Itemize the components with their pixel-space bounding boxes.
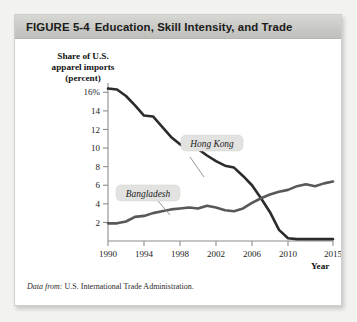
y-tick-label: 14	[91, 106, 101, 116]
y-axis-title-line-1: Share of U.S.	[57, 51, 108, 61]
y-tick-label: 16%	[84, 87, 101, 97]
callout-label-bangladesh: Bangladesh	[126, 189, 171, 199]
x-tick-label: 2010	[279, 249, 298, 259]
x-tick-label: 2002	[207, 249, 225, 259]
x-tick-label: 2015	[324, 249, 342, 259]
figure-card: FIGURE 5-4Education, Skill Intensity, an…	[14, 14, 342, 306]
source-note: Data from: U.S. International Trade Admi…	[27, 282, 194, 291]
y-tick-label: 6	[96, 180, 101, 190]
y-tick-label: 8	[96, 162, 101, 172]
x-tick-label: 2006	[243, 249, 262, 259]
y-tick-label: 12	[91, 125, 100, 135]
figure-title: FIGURE 5-4Education, Skill Intensity, an…	[15, 21, 292, 33]
screenshot-root: FIGURE 5-4Education, Skill Intensity, an…	[0, 0, 357, 322]
y-axis-title-line-2: apparel imports	[52, 62, 115, 72]
x-tick-label: 1990	[99, 249, 118, 259]
callout-hong-kong: Hong Kong	[181, 135, 243, 177]
y-axis-title: Share of U.S. apparel imports (percent)	[52, 51, 115, 83]
leader-line-hong-kong	[190, 157, 204, 177]
y-tick-label: 10	[91, 143, 101, 153]
x-tick-label: 1994	[135, 249, 154, 259]
y-tick-label: 2	[96, 218, 101, 228]
source-text: U.S. International Trade Administration.	[64, 282, 193, 291]
callout-label-hong-kong: Hong Kong	[189, 139, 234, 149]
source-label: Data from:	[27, 282, 62, 291]
x-tick-label: 1998	[171, 249, 190, 259]
y-axis-title-line-3: (percent)	[65, 73, 101, 83]
x-axis-ticks: 1990199419982002200620102015	[99, 241, 342, 259]
figure-title-text: Education, Skill Intensity, and Trade	[95, 21, 293, 33]
figure-body: Share of U.S. apparel imports (percent) …	[15, 39, 341, 306]
chart-area: Share of U.S. apparel imports (percent) …	[15, 39, 342, 279]
figure-title-bar: FIGURE 5-4Education, Skill Intensity, an…	[15, 15, 341, 39]
y-axis-ticks: 16%1412108642	[84, 87, 109, 227]
y-tick-label: 4	[96, 199, 101, 209]
line-chart: Share of U.S. apparel imports (percent) …	[15, 39, 342, 279]
series-group	[108, 89, 333, 240]
figure-number: FIGURE 5-4	[26, 21, 90, 33]
x-axis-title: Year	[311, 261, 329, 271]
